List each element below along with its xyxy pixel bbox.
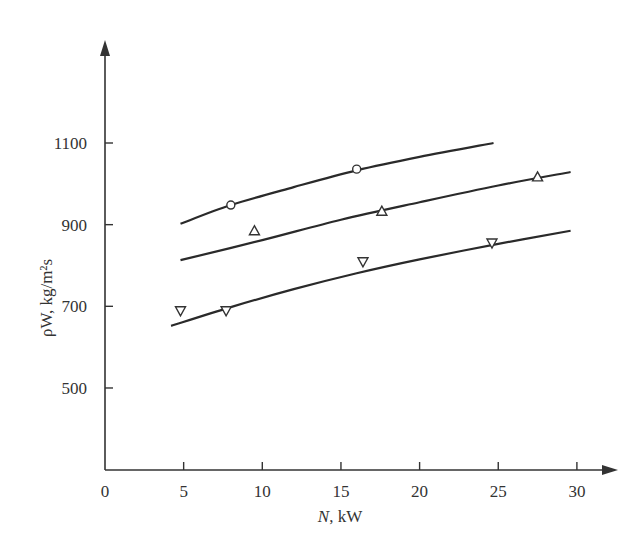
x-tick-label: 25 bbox=[490, 482, 507, 501]
y-tick-label: 700 bbox=[62, 297, 88, 316]
x-tick-label: 15 bbox=[332, 482, 349, 501]
triangle-down-marker-icon bbox=[221, 307, 231, 316]
chart: 051015202530 5007009001100 N, kW ρW, kg/… bbox=[0, 0, 643, 553]
fit-curve-circles bbox=[181, 143, 494, 224]
x-tick-label: 0 bbox=[101, 482, 110, 501]
y-axis-arrow-icon bbox=[100, 40, 110, 56]
x-axis-label: N, kW bbox=[317, 507, 363, 526]
triangle-down-marker-icon bbox=[358, 258, 368, 267]
x-tick-label: 30 bbox=[568, 482, 585, 501]
x-tick-label: 20 bbox=[411, 482, 428, 501]
fit-curves bbox=[171, 143, 571, 326]
x-tick-label: 10 bbox=[254, 482, 271, 501]
fit-curve-triangles-down bbox=[171, 231, 571, 326]
triangle-up-marker-icon bbox=[249, 226, 259, 235]
axes bbox=[105, 52, 605, 470]
circle-marker-icon bbox=[227, 201, 235, 209]
x-axis-arrow-icon bbox=[602, 465, 618, 475]
x-tick-label: 5 bbox=[179, 482, 188, 501]
y-ticks: 5007009001100 bbox=[54, 134, 113, 398]
triangle-down-marker-icon bbox=[176, 307, 186, 316]
y-tick-label: 500 bbox=[62, 379, 88, 398]
y-axis-label: ρW, kg/m²s bbox=[37, 259, 56, 337]
fit-curve-triangles-up bbox=[181, 172, 571, 260]
circle-marker-icon bbox=[353, 165, 361, 173]
x-ticks: 051015202530 bbox=[101, 462, 586, 501]
y-tick-label: 900 bbox=[62, 216, 88, 235]
y-tick-label: 1100 bbox=[54, 134, 87, 153]
